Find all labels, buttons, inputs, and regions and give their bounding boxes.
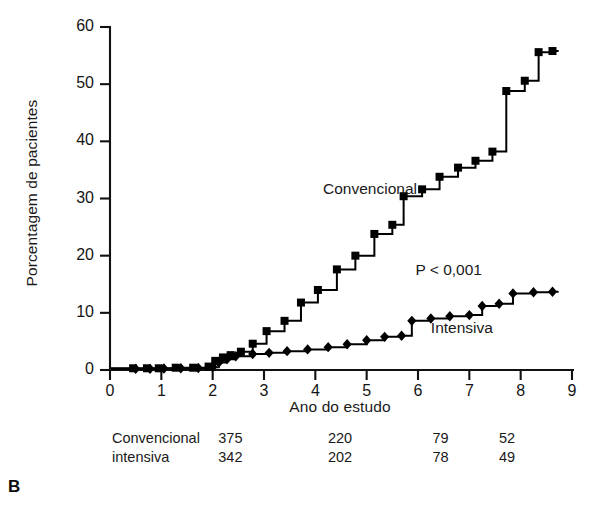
marker-square	[521, 77, 529, 85]
table-row: intensiva 342 202 78 49	[112, 449, 582, 468]
risk-value: 78	[433, 449, 499, 465]
risk-value: 375	[218, 430, 328, 446]
x-tick-label: 4	[303, 382, 327, 400]
table-row: Convencional 375 220 79 52	[112, 430, 582, 449]
marker-diamond	[324, 342, 333, 352]
marker-square	[548, 47, 556, 55]
x-tick-label: 2	[201, 382, 225, 400]
risk-value: 342	[218, 449, 328, 465]
marker-diamond	[478, 301, 487, 311]
marker-diamond	[248, 349, 257, 359]
marker-diamond	[265, 348, 274, 358]
marker-square	[281, 317, 289, 325]
marker-square	[351, 252, 359, 260]
marker-diamond	[407, 316, 416, 326]
panel-letter: B	[8, 477, 20, 497]
p-value-label: P < 0,001	[415, 261, 482, 279]
x-tick-label: 7	[457, 382, 481, 400]
y-tick-label: 20	[54, 246, 94, 264]
marker-square	[333, 265, 341, 273]
marker-diamond	[397, 331, 406, 341]
risk-value: 52	[499, 430, 582, 446]
marker-square	[388, 221, 396, 229]
y-tick-label: 0	[54, 360, 94, 378]
marker-square	[370, 230, 378, 238]
x-axis-title: Ano do estudo	[190, 398, 490, 416]
x-tick-label: 3	[252, 382, 276, 400]
figure-panel-b: Porcentagem de pacientes Ano do estudo 0…	[0, 0, 600, 514]
marker-diamond	[508, 288, 517, 298]
marker-square	[436, 173, 444, 181]
risk-value: 202	[328, 449, 433, 465]
y-tick-label: 50	[54, 74, 94, 92]
x-tick-label: 5	[355, 382, 379, 400]
marker-diamond	[283, 346, 292, 356]
marker-square	[249, 340, 257, 348]
marker-square	[297, 299, 305, 307]
marker-diamond	[529, 287, 538, 297]
x-tick-label: 9	[560, 382, 584, 400]
marker-diamond	[495, 298, 504, 308]
marker-square	[502, 87, 510, 95]
marker-diamond	[303, 344, 312, 354]
marker-square	[454, 164, 462, 172]
y-tick-label: 30	[54, 189, 94, 207]
y-axis-title: Porcentagem de pacientes	[23, 43, 45, 343]
marker-square	[314, 286, 322, 294]
marker-square	[263, 327, 271, 335]
marker-square	[418, 185, 426, 193]
risk-value: 220	[328, 430, 433, 446]
risk-row-label: intensiva	[112, 449, 218, 465]
marker-square	[471, 157, 479, 165]
series-label-intensiva: Intensiva	[431, 319, 493, 337]
y-tick-label: 10	[54, 303, 94, 321]
y-tick-label: 40	[54, 131, 94, 149]
series-label-convencional: Convencional	[323, 180, 417, 198]
axes	[100, 26, 574, 380]
y-tick-label: 60	[54, 17, 94, 35]
risk-row-label: Convencional	[112, 430, 218, 446]
x-tick-label: 0	[98, 382, 122, 400]
risk-value: 49	[499, 449, 582, 465]
marker-diamond	[548, 286, 557, 296]
marker-square	[535, 48, 543, 56]
x-tick-label: 8	[509, 382, 533, 400]
marker-square	[488, 148, 496, 156]
x-tick-label: 6	[406, 382, 430, 400]
risk-value: 79	[433, 430, 499, 446]
x-tick-label: 1	[149, 382, 173, 400]
numbers-at-risk-table: Convencional 375 220 79 52 intensiva 342…	[112, 430, 582, 468]
